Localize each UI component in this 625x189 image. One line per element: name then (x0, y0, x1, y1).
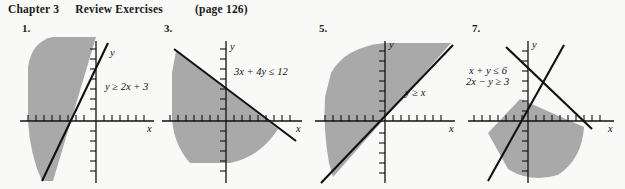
shaded-region (28, 37, 96, 181)
page-reference: (page 126) (195, 3, 248, 15)
graph-5: y x y ≥ x (305, 33, 460, 189)
y-axis-label: y (532, 39, 537, 50)
y-axis-ticks (90, 49, 96, 171)
y-axis-label: y (110, 47, 115, 58)
graph-1: y x y ≥ 2x + 3 (8, 33, 163, 189)
graph-7: y x x + y ≤ 6 2x − y ≥ 3 (458, 33, 625, 189)
exercise-panel-1: 1. (8, 22, 163, 189)
page-heading: Chapter 3 Review Exercises (page 126) (8, 3, 248, 15)
shaded-region (325, 43, 452, 177)
textbook-answer-figure: Chapter 3 Review Exercises (page 126) 1. (0, 0, 625, 189)
inequality-label: y ≥ 2x + 3 (105, 81, 148, 93)
x-axis-label: x (608, 123, 613, 134)
exercise-panel-3: 3. (150, 22, 305, 189)
exercise-panel-5: 5. (305, 22, 460, 189)
y-axis-label: y (389, 39, 394, 50)
exercise-panel-7: 7. (458, 22, 625, 189)
inequality-label: 3x + 4y ≤ 12 (234, 66, 288, 78)
section-title: Review Exercises (75, 3, 163, 15)
x-axis-label: x (296, 123, 301, 134)
inequality-label-2: 2x − y ≥ 3 (466, 76, 509, 88)
graph-3: y x 3x + 4y ≤ 12 (150, 33, 305, 189)
x-axis-label: x (449, 123, 454, 134)
shaded-region (488, 99, 584, 178)
inequality-label: y ≥ x (405, 87, 425, 99)
y-axis-label: y (230, 41, 235, 52)
chapter-label: Chapter 3 (8, 3, 59, 15)
